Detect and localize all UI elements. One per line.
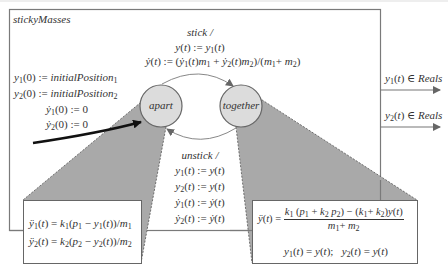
output-y2-label: y2(t) ∈ Reals (385, 110, 442, 121)
apart-ode-2: ÿ2(t) = k2(p2 − y2(t))/m2 (29, 236, 132, 247)
output-y1-label: y1(t) ∈ Reals (385, 73, 442, 84)
together-refinement-box[interactable]: ÿ(t) = k1 (p1 + k2 p2) − (k1+ k2)y(t) m1… (252, 200, 418, 264)
unstick-guard: unstick / (170, 150, 230, 161)
unstick-action-1: y1(t) := y(t) (160, 165, 240, 176)
unstick-action-4: ẏ2(t) := ẏ(t) (160, 213, 240, 224)
state-together-label[interactable]: together (219, 100, 263, 111)
stick-guard: stick / (170, 27, 230, 38)
actor-name: stickyMasses (13, 14, 70, 25)
apart-ode-1: ÿ1(t) = k1(p1 − y1(t))/m1 (29, 218, 132, 229)
unstick-action-2: y2(t) := y(t) (160, 181, 240, 192)
init-action-3: ẏ1(0) := 0 (46, 104, 88, 115)
together-output-equations: y1(t) = y(t); y2(t) = y(t) (253, 246, 419, 257)
stick-action-1: y(t) := y1(t) (140, 42, 260, 53)
unstick-action-3: ẏ1(t) := ẏ(t) (160, 197, 240, 208)
together-ode: ÿ(t) = k1 (p1 + k2 p2) − (k1+ k2)y(t) m1… (258, 207, 404, 231)
stick-action-2: ẏ(t) := (ẏ1(t)m1 + ẏ2(t)m2)/(m1+ m2) (103, 56, 343, 67)
init-action-4: ẏ2(0) := 0 (46, 119, 88, 130)
state-apart-label[interactable]: apart (140, 100, 182, 111)
init-action-1: y1(0) := initialPosition1 (14, 72, 117, 83)
apart-refinement-box[interactable]: ÿ1(t) = k1(p1 − y1(t))/m1 ÿ2(t) = k2(p2 … (23, 200, 142, 264)
init-action-2: y2(0) := initialPosition2 (14, 88, 117, 99)
